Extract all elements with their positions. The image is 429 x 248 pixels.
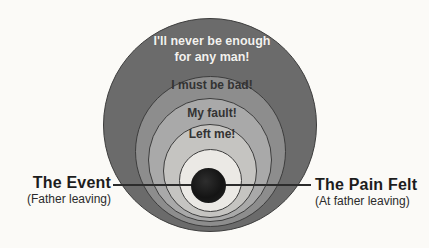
ring-1-label: I'll never be enough for any man! xyxy=(154,33,271,65)
event-label: The Event (Father leaving) xyxy=(0,175,111,206)
pain-felt-label-title: The Pain Felt xyxy=(315,177,417,193)
ring-1-label-line2: for any man! xyxy=(154,49,271,65)
event-label-subtitle: (Father leaving) xyxy=(0,193,111,206)
pain-felt-label: The Pain Felt (At father leaving) xyxy=(315,177,417,208)
onion-diagram: I'll never be enough for any man! I must… xyxy=(0,0,429,248)
event-label-title: The Event xyxy=(0,175,111,191)
ring-2-label: I must be bad! xyxy=(171,78,252,92)
ring-1-label-line1: I'll never be enough xyxy=(154,33,271,49)
ring-4-label: Left me! xyxy=(189,127,236,141)
core-event-dot xyxy=(191,168,226,203)
pain-felt-label-subtitle: (At father leaving) xyxy=(315,195,417,208)
ring-3-label: My fault! xyxy=(187,106,236,120)
